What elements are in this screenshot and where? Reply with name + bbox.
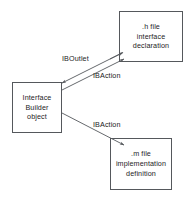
edge-label-ibaction-h-file: IBAction: [93, 72, 121, 79]
node-m-file-line-1: .m file: [131, 149, 151, 159]
node-ib-object-line-1: Interface: [23, 93, 52, 103]
node-interface-builder-object: Interface Builder object: [12, 82, 62, 133]
edge-label-ibaction-m-file: IBAction: [93, 121, 121, 128]
node-h-file-line-1: .h file: [142, 22, 160, 32]
node-h-file-line-2: interface: [137, 32, 165, 42]
node-h-file: .h file interface declaration: [119, 11, 183, 62]
diagram-canvas: .h file interface declaration Interface …: [0, 0, 194, 203]
node-h-file-line-3: declaration: [133, 41, 169, 51]
node-m-file-line-3: definition: [126, 169, 156, 179]
node-m-file: .m file implementation definition: [110, 138, 172, 190]
node-m-file-line-2: implementation: [116, 159, 166, 169]
edge-label-iboutlet: IBOutlet: [62, 55, 89, 62]
node-ib-object-line-2: Builder: [25, 103, 48, 113]
node-ib-object-line-3: object: [27, 112, 47, 122]
